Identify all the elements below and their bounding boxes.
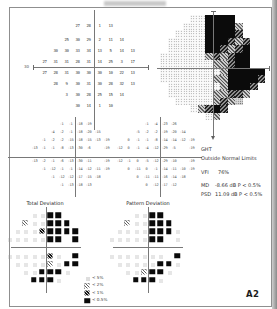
total-dev-value: -19 — [86, 123, 92, 127]
td-prob-symbol — [39, 277, 45, 283]
pattern-dev-value: -19 — [162, 131, 168, 135]
visual-field-report: 30 2728113253029211143030333413514132731… — [0, 0, 277, 309]
td-prob-symbol — [25, 271, 26, 272]
threshold-y-axis — [94, 10, 95, 130]
td-prob-symbol — [16, 239, 17, 240]
total-dev-value: -14 — [77, 168, 83, 172]
pattern-dev-value: -1 — [127, 160, 131, 164]
td-prob-symbol — [16, 255, 17, 256]
legend-label: < 2% — [92, 283, 103, 288]
grayscale-cell — [198, 15, 206, 23]
grayscale-cell — [220, 90, 228, 98]
grayscale-cell — [175, 30, 183, 38]
grayscale-cell — [220, 75, 228, 83]
pattern-dev-value: -12 — [117, 160, 123, 164]
grayscale-cell — [220, 15, 228, 23]
td-prob-symbol — [58, 263, 59, 264]
pattern-dev-value: -12 — [117, 147, 123, 151]
legend-label: < 0.5% — [92, 298, 107, 303]
pd-prob-symbol — [152, 255, 153, 256]
grayscale-cell — [243, 45, 251, 53]
td-prob-symbol — [56, 212, 62, 218]
pattern-dev-value: -19 — [189, 139, 195, 143]
td-prob-symbol — [47, 236, 53, 242]
td-prob-symbol — [41, 255, 42, 256]
total-dev-value: -13 — [32, 160, 38, 164]
grayscale-cell — [258, 75, 266, 83]
threshold-value: 14 — [119, 49, 123, 53]
grayscale-cell — [183, 30, 191, 38]
threshold-value: 9 — [65, 82, 67, 86]
pattern-dev-value: -29 — [162, 147, 168, 151]
pattern-dev-value: -12 — [171, 184, 177, 188]
pd-prob-symbol — [135, 239, 136, 240]
grayscale-cell — [190, 23, 198, 31]
threshold-value: 25 — [64, 38, 68, 42]
grayscale-cell — [198, 83, 206, 91]
grayscale-cell — [205, 15, 213, 23]
grayscale-cell — [168, 90, 176, 98]
total-dev-value: -12 — [68, 176, 74, 180]
grayscale-cell — [183, 98, 191, 106]
threshold-value: 28 — [108, 82, 112, 86]
grayscale-cell — [198, 98, 206, 106]
total-dev-value: -4 — [51, 131, 55, 135]
pd-prob-symbol — [158, 212, 164, 218]
pattern-dev-value: -17 — [162, 184, 168, 188]
pd-prob-symbol — [158, 269, 164, 275]
td-prob-symbol — [25, 263, 26, 264]
pd-prob-symbol — [127, 255, 128, 256]
legend-p2-icon — [85, 283, 90, 288]
grayscale-cell — [198, 23, 206, 31]
grayscale-cell — [228, 45, 236, 53]
threshold-value: 27 — [75, 24, 79, 28]
threshold-value: 10 — [108, 104, 112, 108]
pd-prob-symbol — [118, 263, 119, 264]
total-dev-value: -12 — [59, 176, 65, 180]
pattern-dev-value: 0 — [146, 184, 148, 188]
grayscale-cell — [205, 53, 213, 61]
grayscale-cell — [235, 23, 243, 31]
total-dev-value: -13 — [68, 160, 74, 164]
grayscale-cell — [235, 30, 243, 38]
legend-p5-icon — [87, 278, 88, 279]
threshold-value: 34 — [86, 49, 90, 53]
grayscale-cell — [175, 60, 183, 68]
pattern-dev-value: -14 — [171, 176, 177, 180]
total-dev-value: -2 — [42, 160, 46, 164]
threshold-value: 3 — [120, 60, 122, 64]
td-prob-symbol — [41, 223, 42, 224]
grayscale-cell — [198, 75, 206, 83]
psd-value: 11.09 dB P < 0.5% — [215, 192, 262, 198]
pd-prob-symbol — [127, 239, 128, 240]
axis-degree-label: 30 — [24, 65, 29, 70]
total-dev-value: -1 — [60, 168, 64, 172]
grayscale-cell — [190, 105, 198, 113]
threshold-value: 14 — [97, 60, 101, 64]
td-prob-symbol — [72, 236, 78, 242]
threshold-value: 11 — [108, 38, 112, 42]
td-prob-symbol — [33, 231, 34, 232]
pd-prob-symbol — [125, 221, 130, 226]
grayscale-cell — [220, 45, 228, 53]
total-dev-value: -18 — [77, 139, 83, 143]
total-dev-value: -11 — [86, 160, 92, 164]
pattern-dev-value: -11 — [144, 176, 150, 180]
pattern-dev-value: -18 — [180, 176, 186, 180]
pattern-dev-value: -1 — [145, 123, 149, 127]
scan-artifact — [104, 1, 166, 6]
pattern-dev-value: -2 — [145, 131, 149, 135]
grayscale-cell — [190, 15, 198, 23]
grayscale-cell — [168, 45, 176, 53]
grayscale-cell — [220, 53, 228, 61]
total-dev-value: -8 — [60, 147, 64, 151]
td-prob-symbol — [58, 255, 59, 256]
grayscale-cell — [243, 60, 251, 68]
total-dev-value: -13 — [32, 147, 38, 151]
total-dev-value: -1 — [42, 168, 46, 172]
pd-prob-symbol — [135, 231, 136, 232]
grayscale-cell — [205, 105, 213, 113]
pd-prob-symbol — [166, 261, 172, 267]
legend-p1-icon — [85, 291, 90, 296]
total-dev-value: -15 — [86, 176, 92, 180]
